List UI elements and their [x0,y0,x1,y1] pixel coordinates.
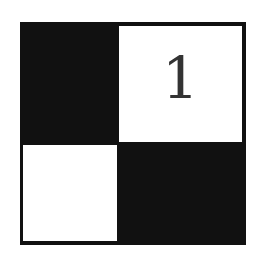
grid-cell-black-r0c0 [20,22,118,143]
grid-cell-white-r1c0[interactable] [23,145,117,241]
grid-cell-black-r1c1 [117,142,246,245]
puzzle-grid: 1 [20,22,246,245]
grid-cell-white-r0c1[interactable]: 1 [119,26,242,142]
cell-number-label: 1 [119,49,242,107]
